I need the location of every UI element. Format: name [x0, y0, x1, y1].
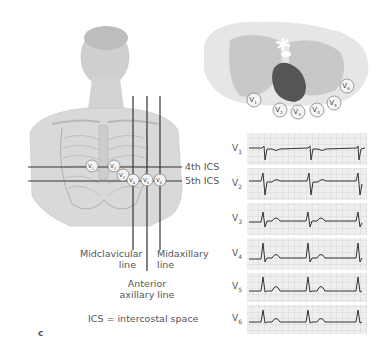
- midaxillary-label-line2: line: [157, 259, 209, 270]
- panel-letter: c: [38, 328, 43, 338]
- midclavicular-label-line1: Midclavicular: [80, 248, 136, 259]
- ecg-lead-label-v3: V3: [232, 213, 242, 225]
- ecg-strips: [247, 133, 367, 334]
- ecg-lead-label-v6: V6: [232, 313, 242, 325]
- midaxillary-label-line1: Midaxillary: [157, 248, 209, 259]
- neck: [88, 78, 124, 110]
- ecg-lead-label-v5: V5: [232, 281, 242, 293]
- anterior-axillary-label-line1: Anterior: [112, 278, 182, 289]
- midclavicular-label-line2: line: [80, 259, 136, 270]
- ics-legend-note: ICS = intercostal space: [88, 313, 198, 324]
- chest-cross-section: [204, 22, 368, 106]
- midaxillary-line-label: Midaxillary line: [157, 248, 209, 270]
- ecg-lead-label-v1: V1: [232, 143, 242, 155]
- anterior-axillary-label-line2: axillary line: [112, 289, 182, 300]
- ecg-lead-label-v2: V2: [232, 178, 242, 190]
- ecg-lead-label-v4: V4: [232, 248, 242, 260]
- 4th-ics-label: 4th ICS: [185, 161, 219, 172]
- sternum: [99, 125, 108, 180]
- 5th-ics-label: 5th ICS: [185, 175, 219, 186]
- anterior-axillary-line-label: Anterior axillary line: [112, 278, 182, 300]
- midclavicular-line-label: Midclavicular line: [80, 248, 136, 270]
